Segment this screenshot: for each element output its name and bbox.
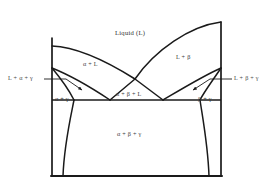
phase-diagram-figure: Liquid (L) α + L L + β α + β + L α + γ β… (0, 0, 278, 186)
beta-liquidus (135, 22, 221, 79)
label-alpha-beta-liquid: α + β + L (116, 91, 142, 97)
right-boundary-fan (163, 68, 221, 100)
label-alpha-beta-gamma: α + β + γ (117, 131, 142, 137)
label-liquid-alpha-gamma: L + α + γ (8, 75, 33, 81)
label-alpha-plus-liquid: α + L (83, 61, 98, 67)
right-solvus (200, 100, 209, 176)
label-alpha-plus-gamma: α + γ (55, 96, 69, 102)
solvus-curves (63, 100, 209, 176)
diagram-frame (51, 22, 222, 176)
left-solvus (63, 100, 74, 176)
label-liquid-plus-beta: L + β (176, 54, 191, 60)
left-leader-line (44, 79, 82, 90)
label-liquid-region: Liquid (L) (115, 30, 145, 37)
label-liquid-beta-gamma: L + β + γ (234, 75, 259, 81)
right-fan-upper (163, 68, 221, 100)
label-beta-plus-gamma: β + γ (198, 96, 212, 102)
